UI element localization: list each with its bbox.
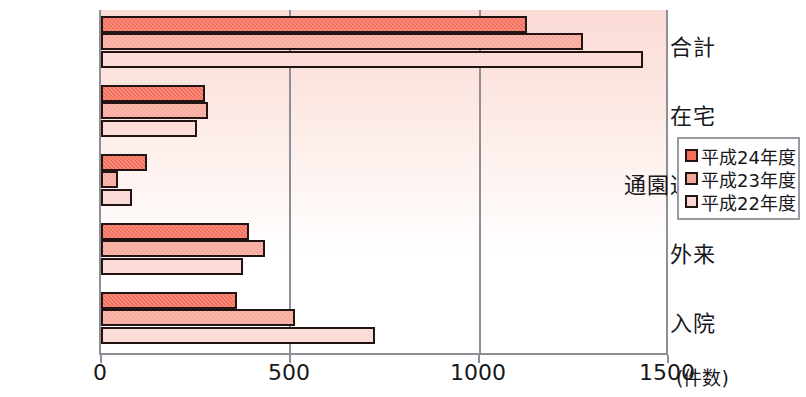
legend-swatch-icon bbox=[685, 195, 698, 208]
bar bbox=[101, 120, 197, 137]
x-tick-label: 0 bbox=[93, 360, 107, 385]
legend-item[interactable]: 平成23年度 bbox=[685, 167, 793, 190]
bar bbox=[101, 189, 132, 206]
bar bbox=[101, 33, 583, 50]
bar bbox=[101, 102, 208, 119]
horizontal-bar-chart: 合計在宅通園通所外来入院 050010001500 (件数) 平成24年度 平成… bbox=[0, 0, 806, 397]
legend-swatch-icon bbox=[685, 172, 698, 185]
bar bbox=[101, 223, 249, 240]
bar bbox=[101, 171, 118, 188]
x-tick-label: 1000 bbox=[450, 360, 506, 385]
bar bbox=[101, 16, 527, 33]
bar bbox=[101, 240, 265, 257]
bar bbox=[101, 309, 295, 326]
legend: 平成24年度 平成23年度 平成22年度 bbox=[677, 137, 800, 220]
category-label: 外来 bbox=[670, 236, 716, 268]
category-label: 入院 bbox=[670, 305, 716, 337]
bar bbox=[101, 258, 243, 275]
bar bbox=[101, 154, 147, 171]
category-label: 合計 bbox=[670, 29, 716, 61]
plot-area bbox=[99, 10, 668, 355]
legend-item[interactable]: 平成22年度 bbox=[685, 190, 793, 213]
bar bbox=[101, 292, 237, 309]
bar bbox=[101, 51, 643, 68]
x-tick-label: 500 bbox=[268, 360, 310, 385]
legend-label: 平成22年度 bbox=[701, 189, 796, 215]
bar bbox=[101, 327, 375, 344]
legend-swatch-icon bbox=[685, 149, 698, 162]
bar bbox=[101, 85, 205, 102]
legend-item[interactable]: 平成24年度 bbox=[685, 144, 793, 167]
category-label: 在宅 bbox=[670, 98, 716, 130]
x-axis-unit-label: (件数) bbox=[676, 363, 729, 390]
